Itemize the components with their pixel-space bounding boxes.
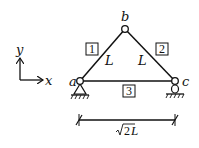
svg-text:2: 2 xyxy=(159,42,165,56)
member-label-1: 1 xyxy=(86,42,98,56)
svg-text:L: L xyxy=(130,123,138,138)
length-label-member-1: L xyxy=(104,53,114,68)
dimension-label: 2 L xyxy=(116,123,138,138)
x-axis-label: x xyxy=(45,73,53,88)
svg-text:1: 1 xyxy=(89,42,95,56)
node-b-hinge-icon xyxy=(122,26,129,33)
svg-text:3: 3 xyxy=(126,84,132,98)
member-label-2: 2 xyxy=(156,42,168,56)
node-a-label: a xyxy=(69,74,77,89)
y-axis-label: y xyxy=(15,42,24,57)
length-label-member-2: L xyxy=(137,53,147,68)
node-b-label: b xyxy=(121,9,129,24)
node-a-hinge-icon xyxy=(77,78,84,85)
node-c-hinge-icon xyxy=(172,78,179,85)
coordinate-axes: y x xyxy=(15,42,53,88)
svg-text:2: 2 xyxy=(124,124,130,138)
truss-diagram: y x 1 2 3 L L a b c xyxy=(0,0,199,148)
node-c-label: c xyxy=(182,74,190,89)
member-label-3: 3 xyxy=(123,84,135,98)
